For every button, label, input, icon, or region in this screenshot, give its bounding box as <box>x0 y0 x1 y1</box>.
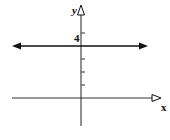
y-axis-label: y <box>70 4 77 16</box>
line-y-equals-4 <box>12 43 148 50</box>
coordinate-plane: y 4 x <box>0 0 170 140</box>
right-arrow-icon <box>139 43 148 50</box>
x-axis-label: x <box>161 101 167 113</box>
x-axis <box>12 95 161 102</box>
left-arrow-icon <box>12 43 21 50</box>
y-tick-label-4: 4 <box>74 32 80 44</box>
y-axis-arrow-icon <box>78 5 85 15</box>
x-axis-arrow-icon <box>152 95 161 102</box>
y-axis <box>78 5 86 126</box>
